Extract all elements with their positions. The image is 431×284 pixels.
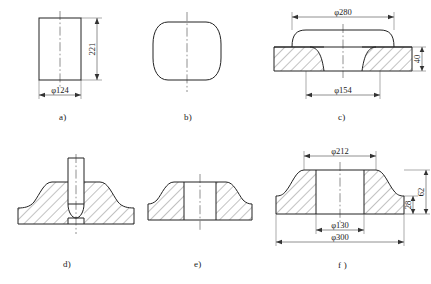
dim-62-label: 62 (416, 188, 426, 197)
dim-phi154-label: φ154 (334, 85, 352, 95)
arrow-right-top (388, 15, 394, 20)
dim-phi280-label: φ280 (334, 7, 352, 17)
dim-28-label: 28 (403, 201, 413, 210)
left-section-hatch (274, 47, 324, 71)
dim-phi212-label: φ212 (331, 146, 349, 156)
arrow-right (75, 93, 81, 98)
figure-e-svg (140, 170, 260, 250)
arrow-right-phi300 (398, 240, 404, 245)
arrow-left-top (292, 15, 298, 20)
left-section-hatch (148, 182, 184, 220)
arrow-down-40 (420, 66, 425, 71)
arrow-down-62 (424, 209, 429, 214)
arrow-right-phi130 (358, 228, 364, 233)
arrow-right-phi212 (370, 154, 376, 159)
arrow-up-28 (411, 196, 416, 201)
dim-diameter-label: φ124 (51, 85, 69, 95)
arrow-right-bottom (374, 93, 380, 98)
arrow-left-phi212 (304, 154, 310, 159)
arrow-left-phi130 (316, 228, 322, 233)
arrow-up (95, 18, 100, 24)
dim-phi300-label: φ300 (331, 232, 349, 242)
arrow-left (39, 93, 45, 98)
caption-b: b) (184, 112, 192, 122)
figure-e (140, 170, 260, 250)
dim-height-label: 221 (87, 43, 97, 56)
figure-d (6, 152, 146, 252)
figure-a-svg: 221 φ124 (22, 6, 122, 106)
caption-e: e) (194, 259, 202, 269)
right-section-hatch (362, 47, 412, 71)
figure-c-svg: φ280 φ154 40 (258, 4, 428, 108)
drawing-sheet: 221 φ124 a) b) (0, 0, 431, 284)
arrow-left-phi300 (276, 240, 282, 245)
caption-f: f ) (338, 260, 347, 270)
caption-c: c) (338, 112, 346, 122)
caption-a: a) (59, 112, 67, 122)
figure-a: 221 φ124 (22, 6, 122, 106)
figure-b (150, 10, 242, 106)
figure-f-svg: φ212 φ130 φ300 62 (262, 148, 431, 264)
arrow-up-62 (424, 170, 429, 175)
figure-c: φ280 φ154 40 (258, 4, 428, 108)
arrow-left-bottom (306, 93, 312, 98)
dim-phi130-label: φ130 (331, 220, 349, 230)
figure-b-svg (150, 10, 242, 106)
figure-d-svg (6, 152, 146, 252)
figure-f: φ212 φ130 φ300 62 (262, 148, 431, 264)
dim-40-label: 40 (412, 55, 422, 64)
caption-d: d) (63, 259, 71, 269)
arrow-up-40 (420, 47, 425, 52)
right-section-hatch (216, 182, 252, 220)
left-section-hatch (276, 170, 316, 214)
right-section-hatch (364, 170, 404, 214)
arrow-down (95, 74, 100, 80)
